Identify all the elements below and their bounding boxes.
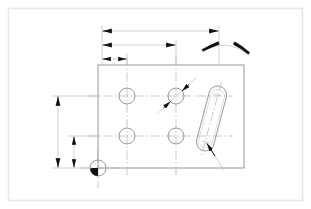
part-outline-rectangular-plate <box>98 65 244 168</box>
datum-filled-quadrant <box>90 168 98 176</box>
dim-slot-angle-group <box>202 41 250 55</box>
dim-hole-diameter-arrow-upper <box>182 85 189 92</box>
holes-group <box>119 88 184 144</box>
dim-slot-angle-arrow-right <box>233 42 250 55</box>
dim-slot-angle-arrow-left <box>202 41 220 51</box>
dim-slot-leader-group <box>206 142 224 170</box>
horizontal-dimensions-group <box>102 31 219 59</box>
cad-drawing-root <box>0 0 311 209</box>
sheet-border <box>9 9 303 201</box>
vertical-dimensions-group <box>58 96 74 168</box>
cad-drawing-canvas <box>0 0 311 209</box>
dim-hole-diameter-arrow-lower <box>164 102 171 109</box>
part-outline-group <box>98 65 244 168</box>
dim-hole-diameter-leader <box>157 77 197 114</box>
vertical-extension-lines-group <box>52 96 99 168</box>
dim-hole-diameter-group <box>157 77 197 114</box>
